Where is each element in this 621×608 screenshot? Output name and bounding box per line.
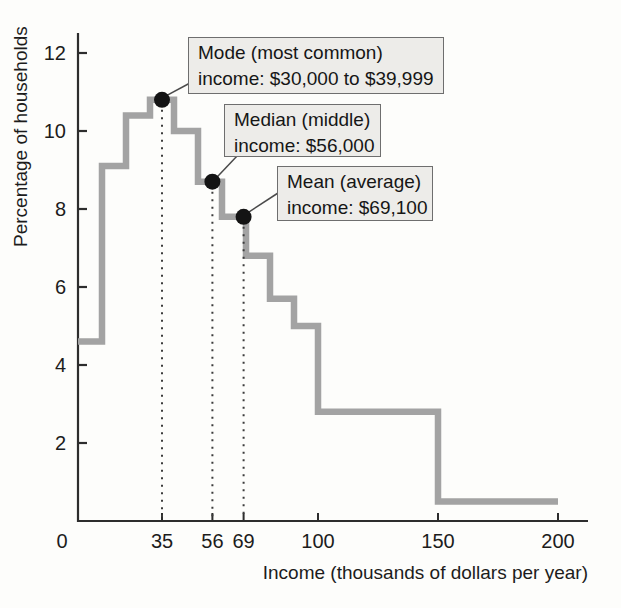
y-tick-label: 2 <box>55 432 66 454</box>
median-callout: Median (middle) income: $56,000 <box>224 104 381 157</box>
y-tick-label: 4 <box>55 354 66 376</box>
median-callout-value: income: $56,000 <box>234 133 372 159</box>
mode-callout: Mode (most common) income: $30,000 to $3… <box>188 37 444 94</box>
median-dot <box>204 174 220 190</box>
y-tick-label: 12 <box>44 42 66 64</box>
y-tick-label: 6 <box>55 276 66 298</box>
x-tick-label: 0 <box>56 530 67 552</box>
income-distribution-figure: 246810120355669100150200 Mode (most comm… <box>0 0 621 608</box>
mean-callout-title: Mean (average) <box>287 169 424 195</box>
mean-callout: Mean (average) income: $69,100 <box>277 166 433 221</box>
mean-leader-line <box>248 193 278 213</box>
x-tick-label: 200 <box>541 530 574 552</box>
distribution-step-line <box>78 100 558 502</box>
x-tick-label: 56 <box>201 530 223 552</box>
mean-dot <box>236 209 252 225</box>
y-tick-label: 10 <box>44 120 66 142</box>
x-tick-label: 35 <box>151 530 173 552</box>
mode-callout-value: income: $30,000 to $39,999 <box>198 66 435 92</box>
x-axis-title: Income (thousands of dollars per year) <box>258 562 588 584</box>
x-tick-label: 69 <box>232 530 254 552</box>
y-axis-title: Percentage of households <box>10 27 34 247</box>
mode-leader-line <box>166 83 190 96</box>
x-tick-label: 150 <box>421 530 454 552</box>
mode-dot <box>154 92 170 108</box>
mean-callout-value: income: $69,100 <box>287 195 424 221</box>
mode-callout-title: Mode (most common) <box>198 40 435 66</box>
median-callout-title: Median (middle) <box>234 107 372 133</box>
y-tick-label: 8 <box>55 198 66 220</box>
x-tick-label: 100 <box>301 530 334 552</box>
